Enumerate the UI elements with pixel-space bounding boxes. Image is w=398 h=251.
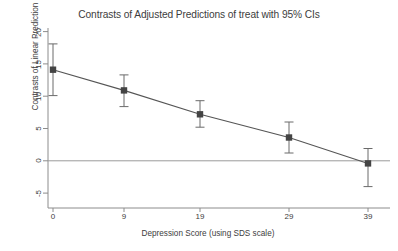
confidence-interval-bars	[49, 44, 373, 187]
plot-area	[0, 0, 398, 251]
x-axis-ticks	[53, 208, 368, 212]
data-point-x39	[365, 160, 371, 166]
chart-figure: Contrasts of Adjusted Predictions of tre…	[0, 0, 398, 251]
data-point-x19	[197, 111, 203, 117]
data-point-x9	[121, 87, 127, 93]
ci-bar-x39	[364, 149, 373, 187]
data-point-x0	[50, 67, 56, 73]
axes-group	[43, 28, 390, 212]
contrast-trend-line	[53, 70, 368, 164]
y-axis-ticks	[43, 32, 48, 194]
data-point-x29	[286, 134, 292, 140]
